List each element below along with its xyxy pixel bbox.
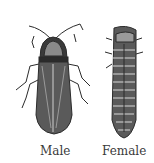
firefly-illustration [0, 0, 154, 163]
female-firefly-drawing [105, 26, 143, 138]
male-label: Male [40, 144, 70, 158]
female-label: Female [102, 144, 146, 158]
male-firefly-drawing [16, 24, 90, 134]
